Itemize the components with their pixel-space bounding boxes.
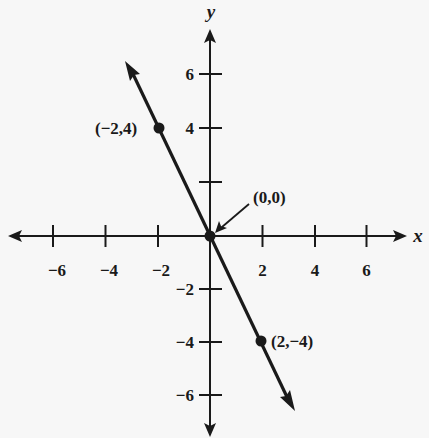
point-neg2-4	[154, 123, 165, 134]
x-tick-label-neg2: −2	[152, 261, 170, 280]
x-tick-label-6: 6	[362, 261, 371, 280]
coordinate-plane: −6 −4 −2 2 4 6 x 6 4 −2 −4 −6 y (	[0, 0, 429, 438]
x-tick-label-neg6: −6	[48, 261, 66, 280]
x-tick-label-4: 4	[311, 261, 320, 280]
line-upper-arrow-icon	[125, 61, 140, 81]
annotation-arrow-line	[222, 204, 249, 227]
y-tick-label-neg2: −2	[176, 280, 194, 299]
point-label-neg2-4: (−2,4)	[95, 119, 137, 138]
line-lower-arrow-icon	[280, 390, 295, 411]
x-axis: −6 −4 −2 2 4 6 x	[8, 225, 423, 280]
point-label-origin: (0,0)	[253, 188, 286, 207]
x-axis-label: x	[412, 225, 423, 246]
y-tick-label-6: 6	[186, 65, 195, 84]
x-tick-label-2: 2	[258, 261, 267, 280]
y-axis-label: y	[205, 1, 216, 22]
y-tick-label-4: 4	[186, 119, 195, 138]
y-tick-label-neg4: −4	[176, 333, 195, 352]
point-label-2-neg4: (2,−4)	[271, 332, 313, 351]
point-2-neg4	[256, 336, 267, 347]
annotation-arrow-icon	[215, 221, 227, 233]
y-tick-label-neg6: −6	[176, 386, 194, 405]
point-origin	[205, 231, 216, 242]
x-tick-label-neg4: −4	[100, 261, 119, 280]
origin-annotation: (0,0)	[215, 188, 286, 233]
y-axis: 6 4 −2 −4 −6 y	[176, 1, 222, 437]
